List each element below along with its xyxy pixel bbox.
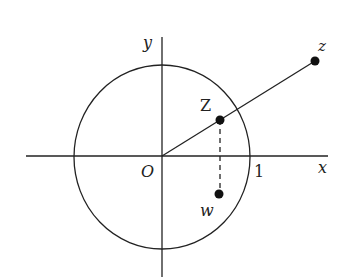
point-Z <box>216 116 225 125</box>
point-w <box>215 190 224 199</box>
origin-label: O <box>141 162 154 181</box>
point-z-label: z <box>317 37 326 55</box>
complex-plane-diagram: y x O 1 z Z w <box>0 0 343 280</box>
x-axis-label: x <box>318 158 327 177</box>
segment-o-z <box>162 61 315 156</box>
unit-label: 1 <box>254 162 264 181</box>
point-w-label: w <box>200 201 214 220</box>
point-z <box>311 57 320 66</box>
y-axis-label: y <box>142 33 153 52</box>
point-Z-label: Z <box>200 96 211 115</box>
